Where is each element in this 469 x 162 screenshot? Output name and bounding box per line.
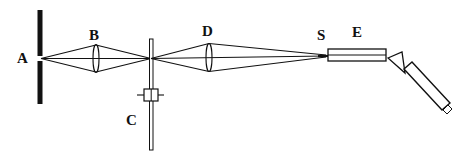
label-c: C [126, 112, 137, 128]
label-s: S [317, 27, 325, 43]
rays-c-to-s [151, 44, 326, 72]
telescope [404, 62, 452, 114]
label-a: A [17, 50, 28, 66]
prism [388, 52, 405, 73]
rays-a-to-c [41, 45, 151, 72]
aperture-screen-a [38, 10, 43, 104]
label-d: D [202, 23, 213, 39]
collimator-e [328, 49, 386, 61]
label-b: B [89, 27, 99, 43]
label-e: E [352, 24, 362, 40]
optical-diagram: A B C D S E [0, 0, 469, 162]
